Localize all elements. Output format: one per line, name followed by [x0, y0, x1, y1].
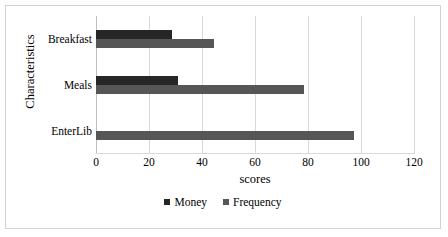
chart-figure: Characteristics BreakfastMealsEnterLib 0…: [5, 5, 441, 229]
bar-money-meals: [96, 76, 178, 85]
x-tick-label: 20: [143, 156, 155, 168]
bar-frequency-breakfast: [96, 39, 214, 48]
y-tick-label: Breakfast: [48, 33, 92, 45]
legend-item-frequency[interactable]: Frequency: [223, 196, 282, 208]
legend-swatch-icon: [223, 199, 229, 205]
x-tick-label: 80: [302, 156, 314, 168]
legend-swatch-icon: [164, 199, 170, 205]
legend-label: Money: [174, 196, 207, 208]
gridline-120: [414, 16, 415, 154]
plot-area: [96, 16, 414, 154]
y-axis-tick-labels: BreakfastMealsEnterLib: [6, 16, 92, 154]
x-tick-label: 60: [249, 156, 261, 168]
bar-frequency-enterlib: [96, 131, 354, 140]
bar-money-breakfast: [96, 30, 172, 39]
y-tick-label: EnterLib: [51, 125, 92, 137]
x-axis-title: scores: [96, 172, 414, 187]
bar-frequency-meals: [96, 85, 304, 94]
x-tick-label: 120: [405, 156, 422, 168]
legend-label: Frequency: [233, 196, 282, 208]
chart-legend: MoneyFrequency: [6, 196, 440, 208]
y-tick-label: Meals: [64, 79, 92, 91]
x-axis-line: [96, 153, 414, 154]
gridline-100: [361, 16, 362, 154]
legend-item-money[interactable]: Money: [164, 196, 207, 208]
x-axis-tick-labels: 020406080100120: [96, 156, 414, 172]
x-tick-label: 100: [352, 156, 369, 168]
x-tick-label: 0: [93, 156, 99, 168]
x-tick-label: 40: [196, 156, 208, 168]
